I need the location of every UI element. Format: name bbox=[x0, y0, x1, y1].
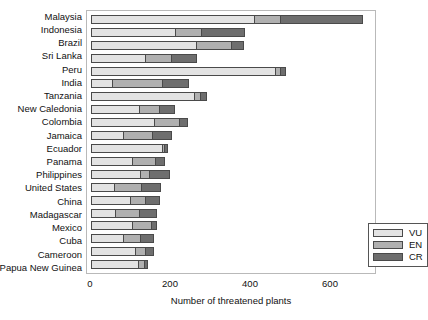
y-axis-category-labels: MalaysiaIndonesiaBrazilSri LankaPeruIndi… bbox=[0, 10, 86, 274]
chart-legend: VUENCR bbox=[368, 223, 428, 267]
bar-segment-vu bbox=[91, 221, 132, 230]
bar-segment-vu bbox=[91, 79, 112, 88]
bar-segment-en bbox=[132, 157, 155, 166]
stacked-bar bbox=[91, 157, 165, 166]
y-axis-label: Ecuador bbox=[0, 142, 86, 155]
bar-segment-cr bbox=[144, 260, 148, 269]
stacked-bar bbox=[91, 183, 161, 192]
bar-row bbox=[87, 39, 375, 52]
bar-row bbox=[87, 168, 375, 181]
bar-segment-cr bbox=[155, 157, 165, 166]
legend-swatch-cr bbox=[373, 253, 403, 261]
bar-row bbox=[87, 207, 375, 220]
legend-label: CR bbox=[409, 252, 423, 262]
bar-segment-en bbox=[115, 209, 139, 218]
bar-segment-cr bbox=[141, 183, 161, 192]
y-axis-label: Papua New Guinea bbox=[0, 261, 86, 274]
x-axis: 0200400600 bbox=[86, 274, 376, 296]
y-axis-label: New Caledonia bbox=[0, 102, 86, 115]
bar-segment-en bbox=[130, 196, 145, 205]
legend-swatch-en bbox=[373, 241, 403, 249]
bar-row bbox=[87, 116, 375, 129]
bar-segment-vu bbox=[91, 234, 123, 243]
bar-segment-en bbox=[123, 131, 152, 140]
bar-segment-vu bbox=[91, 183, 114, 192]
bar-segment-vu bbox=[91, 260, 138, 269]
bar-row bbox=[87, 194, 375, 207]
bar-segment-en bbox=[114, 183, 142, 192]
y-axis-label: Philippines bbox=[0, 168, 86, 181]
bar-row bbox=[87, 78, 375, 91]
bar-row bbox=[87, 26, 375, 39]
bar-segment-vu bbox=[91, 157, 132, 166]
y-axis-label: China bbox=[0, 195, 86, 208]
bar-segment-en bbox=[196, 41, 232, 50]
y-axis-label: Tanzania bbox=[0, 89, 86, 102]
bars-container bbox=[87, 11, 375, 273]
bar-row bbox=[87, 258, 375, 271]
stacked-bar bbox=[91, 15, 363, 24]
bar-segment-vu bbox=[91, 247, 135, 256]
bar-segment-vu bbox=[91, 131, 123, 140]
legend-label: VU bbox=[409, 228, 422, 238]
bar-segment-en bbox=[112, 79, 162, 88]
y-axis-label: Jamaica bbox=[0, 129, 86, 142]
bar-row bbox=[87, 155, 375, 168]
stacked-bar bbox=[91, 79, 189, 88]
y-axis-label: Cuba bbox=[0, 234, 86, 247]
x-axis-tick-label: 0 bbox=[87, 278, 92, 289]
bar-segment-en bbox=[135, 247, 145, 256]
stacked-bar bbox=[91, 92, 207, 101]
stacked-bar bbox=[91, 209, 157, 218]
bar-segment-cr bbox=[162, 79, 189, 88]
bar-segment-cr bbox=[201, 28, 245, 37]
bar-segment-vu bbox=[91, 196, 130, 205]
bar-row bbox=[87, 142, 375, 155]
stacked-bar bbox=[91, 221, 157, 230]
bar-row bbox=[87, 103, 375, 116]
bar-segment-cr bbox=[145, 196, 160, 205]
y-axis-label: Panama bbox=[0, 155, 86, 168]
plot-area: VUENCR bbox=[86, 10, 376, 274]
bar-segment-en bbox=[154, 118, 179, 127]
stacked-bar bbox=[91, 131, 172, 140]
stacked-bar bbox=[91, 196, 160, 205]
stacked-bar bbox=[91, 170, 170, 179]
bar-segment-en bbox=[139, 105, 159, 114]
bar-segment-cr bbox=[179, 118, 188, 127]
bar-segment-vu bbox=[91, 41, 196, 50]
stacked-bar bbox=[91, 54, 197, 63]
y-axis-label: Colombia bbox=[0, 116, 86, 129]
stacked-bar bbox=[91, 118, 188, 127]
bar-segment-cr bbox=[149, 170, 170, 179]
legend-swatch-vu bbox=[373, 229, 403, 237]
bar-row bbox=[87, 90, 375, 103]
bar-segment-cr bbox=[200, 92, 207, 101]
bar-row bbox=[87, 245, 375, 258]
x-axis-tick-label: 400 bbox=[242, 278, 258, 289]
bar-row bbox=[87, 181, 375, 194]
y-axis-label: Malaysia bbox=[0, 10, 86, 23]
y-axis-label: Cameroon bbox=[0, 248, 86, 261]
bar-row bbox=[87, 232, 375, 245]
x-axis-tick-label: 600 bbox=[322, 278, 338, 289]
legend-item: EN bbox=[373, 239, 423, 251]
bar-segment-cr bbox=[139, 209, 157, 218]
bar-segment-vu bbox=[91, 15, 254, 24]
stacked-bar bbox=[91, 260, 148, 269]
bar-segment-en bbox=[175, 28, 201, 37]
y-axis-label: Indonesia bbox=[0, 23, 86, 36]
stacked-bar bbox=[91, 247, 154, 256]
bar-segment-vu bbox=[91, 144, 162, 153]
y-axis-label: Mexico bbox=[0, 221, 86, 234]
bar-row bbox=[87, 13, 375, 26]
legend-item: CR bbox=[373, 251, 423, 263]
bar-segment-cr bbox=[140, 234, 154, 243]
stacked-bar bbox=[91, 144, 168, 153]
bar-segment-vu bbox=[91, 92, 194, 101]
bar-segment-vu bbox=[91, 28, 175, 37]
bar-row bbox=[87, 52, 375, 65]
bar-segment-vu bbox=[91, 170, 140, 179]
bar-segment-cr bbox=[231, 41, 244, 50]
